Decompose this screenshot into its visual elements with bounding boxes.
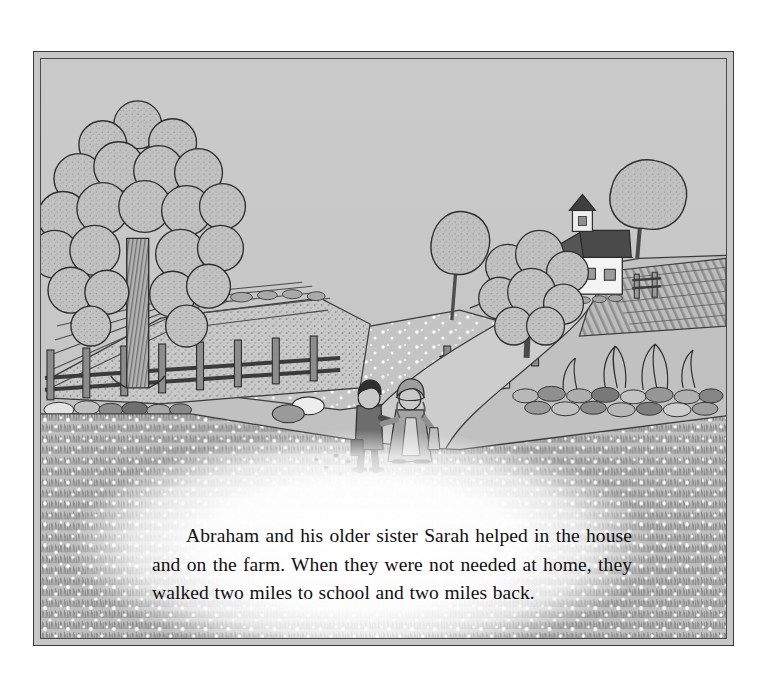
book-page: Abraham and his older sister Sarah helpe…	[0, 0, 772, 699]
caption-block: Abraham and his older sister Sarah helpe…	[152, 522, 632, 608]
illustration-frame: Abraham and his older sister Sarah helpe…	[33, 51, 734, 646]
caption-text: Abraham and his older sister Sarah helpe…	[152, 522, 632, 608]
